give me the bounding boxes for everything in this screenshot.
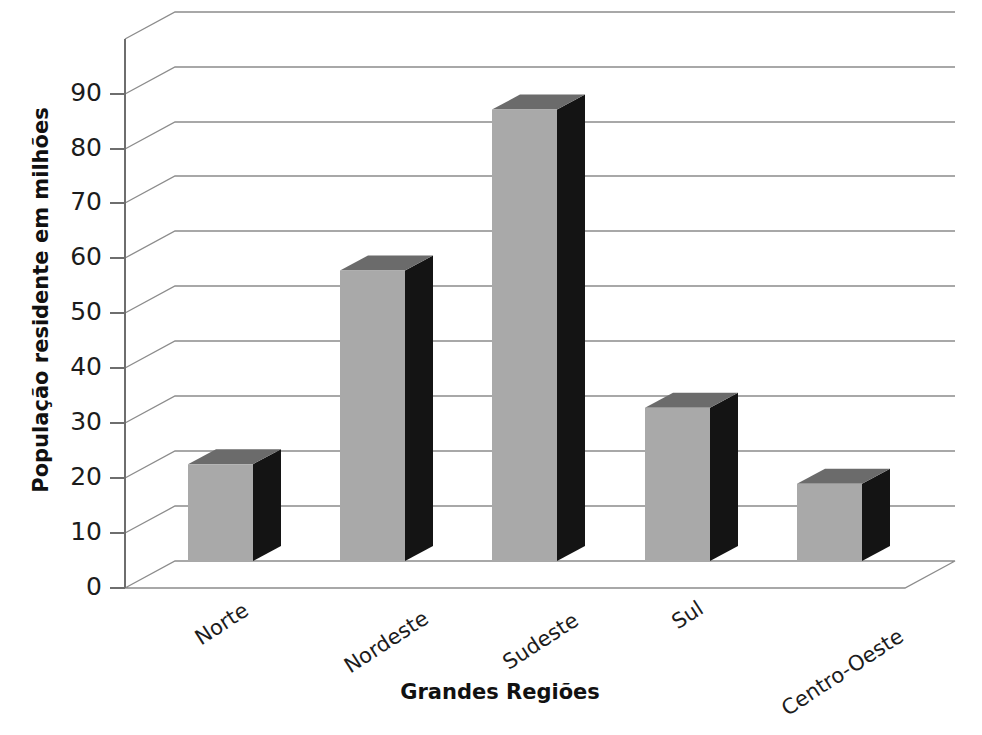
bar-side-norte xyxy=(253,449,281,561)
y-tick-label-30: 30 xyxy=(70,407,102,436)
x-tick-label-nordeste: Nordeste xyxy=(340,606,433,678)
bar-sudeste[interactable] xyxy=(492,95,585,561)
y-tick-label-10: 10 xyxy=(70,517,102,546)
gridline-100 xyxy=(125,12,955,39)
y-tick-label-90: 90 xyxy=(70,78,102,107)
bar-sul[interactable] xyxy=(645,393,738,561)
floor-outline xyxy=(125,561,955,588)
y-tick-label-80: 80 xyxy=(70,133,102,162)
x-tick-label-centro-oeste: Centro-Oeste xyxy=(777,624,908,721)
y-tick-label-40: 40 xyxy=(70,352,102,381)
x-tick-label-sul: Sul xyxy=(667,596,707,634)
y-tick-label-70: 70 xyxy=(70,187,102,216)
bar-front-nordeste xyxy=(340,270,405,561)
bar-norte[interactable] xyxy=(188,449,281,561)
bar-side-sudeste xyxy=(557,95,585,561)
gridline-90 xyxy=(125,67,955,94)
bar-front-centro-oeste xyxy=(797,484,862,561)
y-tick-label-20: 20 xyxy=(70,462,102,491)
y-axis: 90 80 70 60 50 40 30 20 10 0 xyxy=(70,39,125,601)
bar-front-norte xyxy=(188,464,253,561)
chart-canvas: 90 80 70 60 50 40 30 20 10 0 xyxy=(0,0,982,735)
floor-plane xyxy=(125,561,955,588)
y-tick-label-0: 0 xyxy=(86,572,102,601)
bar-chart-figure: 90 80 70 60 50 40 30 20 10 0 xyxy=(0,0,982,735)
x-tick-label-sudeste: Sudeste xyxy=(498,608,582,674)
y-axis-title: População residente em milhões xyxy=(29,107,53,492)
bar-side-sul xyxy=(710,393,738,561)
bar-nordeste[interactable] xyxy=(340,255,433,561)
bar-centro-oeste[interactable] xyxy=(797,469,890,561)
y-tick-label-60: 60 xyxy=(70,242,102,271)
bar-front-sul xyxy=(645,408,710,561)
y-tick-label-50: 50 xyxy=(70,297,102,326)
x-tick-label-norte: Norte xyxy=(191,598,253,650)
bar-side-nordeste xyxy=(405,255,433,561)
bar-side-centro-oeste xyxy=(862,469,890,561)
x-axis-title: Grandes Regiões xyxy=(400,680,600,704)
bar-front-sudeste xyxy=(492,110,557,561)
